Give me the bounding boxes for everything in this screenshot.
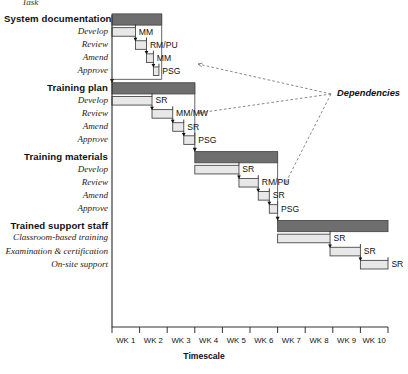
resource-code-1-2: SR [187,123,199,132]
dependency-callout-line-1 [198,94,331,113]
task-bar [112,28,135,37]
summary-bar [195,152,278,163]
resource-code-2-0: SR [242,165,254,174]
gantt-chart: Task System documentationDevelopReviewAm… [0,0,408,374]
dependencies-annotation-label: Dependencies [337,89,400,98]
week-label-10: WK 10 [356,337,392,345]
resource-code-3-2: SR [391,260,403,269]
resource-code-2-2: SR [273,191,285,200]
resource-code-1-0: SR [155,96,167,105]
task-bar [152,110,173,119]
task-bar [147,54,154,63]
resource-code-0-3: PSG [162,67,180,76]
resource-code-1-1: MM/MW [176,109,208,118]
dependency-callout-line-0 [198,64,331,94]
task-bar [239,178,258,187]
task-bar [278,234,330,243]
dependency-callout-arrow-0 [198,63,203,67]
task-bar [112,96,152,105]
gantt-graphics [0,0,408,374]
task-bar [269,205,277,214]
task-bar [360,260,388,269]
resource-code-2-1: RM/PU [262,178,290,187]
dependency-callout-line-2 [285,94,331,184]
task-bar [184,136,195,145]
summary-bar [112,14,162,25]
resource-code-0-2: MM [157,54,171,63]
resource-code-1-3: PSG [198,136,216,145]
task-bar [173,123,184,132]
summary-bar [112,83,195,94]
task-bar [135,41,146,50]
task-bar [195,165,239,174]
resource-code-0-0: MM [139,28,153,37]
resource-code-3-1: SR [364,247,376,256]
summary-bar [278,220,388,231]
task-bar [330,247,360,256]
axis-title-timescale: Timescale [0,352,408,361]
resource-code-2-3: PSG [281,205,299,214]
resource-code-3-0: SR [333,234,345,243]
task-bar [153,67,159,76]
task-bar [258,192,269,201]
resource-code-0-1: RM/PU [150,41,178,50]
